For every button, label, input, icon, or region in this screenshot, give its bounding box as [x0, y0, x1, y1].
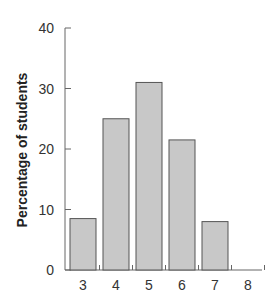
y-tick-label: 0	[46, 262, 54, 278]
y-tick-label: 20	[38, 141, 54, 157]
chart-canvas: 010203040345678	[0, 0, 280, 303]
bar-4	[103, 119, 129, 270]
x-tick-label: 6	[178, 277, 186, 293]
x-tick-label: 5	[145, 277, 153, 293]
bar-3	[70, 219, 96, 270]
y-tick-label: 40	[38, 20, 54, 36]
bar-5	[136, 82, 162, 270]
x-tick-label: 4	[112, 277, 120, 293]
y-tick-label: 10	[38, 202, 54, 218]
x-tick-label: 3	[79, 277, 87, 293]
x-tick-label: 8	[244, 277, 252, 293]
y-axis-label: Percentage of students	[14, 73, 30, 228]
bar-6	[169, 140, 195, 270]
bar-chart: 010203040345678 Percentage of students	[0, 0, 280, 303]
bar-7	[202, 222, 228, 270]
x-tick-label: 7	[211, 277, 219, 293]
y-tick-label: 30	[38, 81, 54, 97]
